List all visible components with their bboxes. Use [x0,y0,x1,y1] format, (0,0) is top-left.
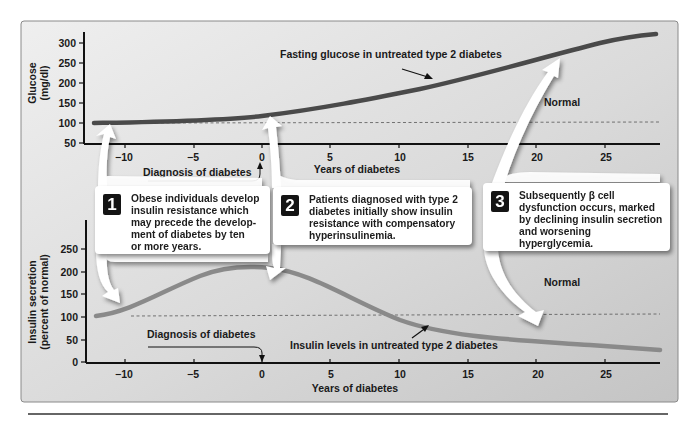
glucose-y-label: Glucose [26,62,38,104]
callout-number-badge: 2 [281,195,299,216]
callout-box-3: 3 Subsequently β cell dysfunction occurs… [483,183,670,251]
insulin-x-tick-label: 10 [394,368,406,380]
insulin-x-tick-label: 20 [532,368,544,380]
glucose-y-tick-label: 200 [58,77,76,89]
glucose-y-tick-label: 150 [58,97,76,109]
glucose-y-tick-label: 250 [58,57,76,69]
glucose-x-label: Years of diabetes [314,163,401,175]
insulin-y-tick-label: 100 [60,311,78,323]
callout-box-1: 1 Obese individuals develop insulin resi… [95,186,270,254]
glucose-x-tick-label: 25 [600,151,612,163]
glucose-x-tick-label: 20 [531,151,543,163]
insulin-curve-label: Insulin levels in untreated type 2 diabe… [290,339,498,351]
glucose-x-tick-label: 0 [259,151,265,163]
insulin-normal-label: Normal [544,276,580,288]
insulin-x-tick-label: 0 [259,368,265,380]
callout-1-connector-lower [105,254,268,262]
insulin-x-tick-label: −5 [187,368,199,380]
insulin-x-tick-label: 5 [328,368,334,380]
insulin-y-tick-label: 150 [60,288,78,300]
glucose-y-tick-label: 300 [58,37,76,49]
callout-text: Subsequently β cell dysfunction occurs, … [519,190,664,250]
insulin-y-tick-label: 50 [66,334,78,346]
glucose-x-tick-label: 15 [462,151,474,163]
callout-text: Obese individuals develop insulin resist… [131,193,264,253]
glucose-x-tick-label: −5 [187,151,199,163]
callout-number-badge: 1 [103,194,121,215]
glucose-x-tick-label: 10 [394,151,406,163]
insulin-x-tick-label: 25 [600,368,612,380]
glucose-y-label-unit: (mg/dl) [38,66,50,101]
glucose-x-tick-label: −10 [115,151,133,163]
insulin-y-tick-label: 0 [72,356,78,368]
callout-text: Patients diagnosed with type 2 diabetes … [309,194,466,242]
callout-box-2: 2 Patients diagnosed with type 2 diabete… [273,187,472,245]
insulin-x-tick-label: 15 [462,368,474,380]
glucose-diagnosis-label: Diagnosis of diabetes [143,166,252,178]
insulin-y-label: Insulin secretion [26,260,38,343]
callout-number-badge: 3 [491,191,509,212]
glucose-normal-label: Normal [544,96,580,108]
insulin-y-tick-label: 250 [60,243,78,255]
insulin-diagnosis-label: Diagnosis of diabetes [147,328,256,340]
insulin-x-tick-label: −10 [115,368,133,380]
insulin-x-label: Years of diabetes [312,382,399,394]
insulin-y-tick-label: 200 [60,266,78,278]
glucose-y-tick-label: 100 [58,117,76,129]
glucose-curve-label: Fasting glucose in untreated type 2 diab… [280,48,502,60]
glucose-y-tick-label: 50 [64,137,76,149]
glucose-x-tick-label: 5 [327,151,333,163]
insulin-y-label-unit: (percent of normal) [38,254,50,350]
